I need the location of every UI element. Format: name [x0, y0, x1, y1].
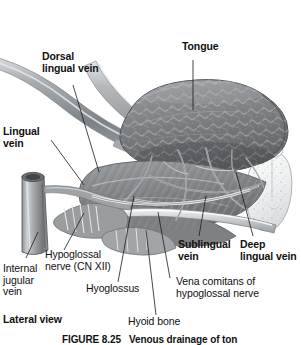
- label-lingual-vein: Lingual vein: [3, 126, 40, 149]
- figure-caption: FIGURE 8.25 Venous drainage of ton: [62, 334, 237, 345]
- label-tongue: Tongue: [182, 41, 219, 53]
- label-internal-jugular-vein: Internal jugular vein: [3, 263, 37, 298]
- label-dorsal-lingual-vein: Dorsal lingual vein: [42, 51, 99, 74]
- label-hyoid-bone: Hyoid bone: [128, 316, 180, 328]
- label-hypoglossal-nerve: Hypoglossal nerve (CN XII): [45, 249, 111, 272]
- label-hyoglossus: Hyoglossus: [86, 283, 139, 295]
- label-lateral-view: Lateral view: [3, 314, 62, 326]
- label-vena-comitans: Vena comitans of hypoglossal nerve: [176, 276, 259, 299]
- internal-jugular-vein: [22, 172, 48, 254]
- label-sublingual-vein: Sublingual vein: [178, 239, 231, 262]
- label-deep-lingual-vein: Deep lingual vein: [240, 239, 297, 262]
